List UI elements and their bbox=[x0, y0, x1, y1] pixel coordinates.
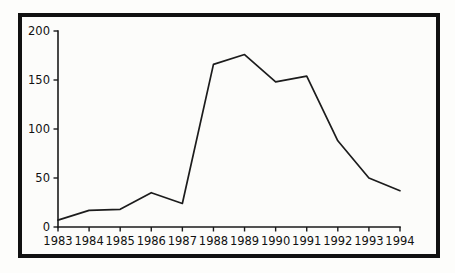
y-tick-label: 100 bbox=[28, 122, 50, 136]
y-tick-label: 0 bbox=[43, 220, 50, 234]
y-axis: 050100150200 bbox=[28, 24, 58, 234]
x-tick-label: 1989 bbox=[230, 234, 259, 248]
y-tick-labels: 050100150200 bbox=[28, 24, 50, 234]
y-tick-label: 200 bbox=[28, 24, 50, 38]
y-tick-label: 150 bbox=[28, 73, 50, 87]
x-tick-label: 1990 bbox=[261, 234, 290, 248]
x-tick-label: 1986 bbox=[137, 234, 166, 248]
x-tick-label: 1984 bbox=[74, 234, 103, 248]
x-tick-label: 1994 bbox=[385, 234, 414, 248]
chart-figure: 050100150200 198319841985198619871988198… bbox=[0, 0, 455, 273]
x-tick-label: 1988 bbox=[199, 234, 228, 248]
x-tick-labels: 1983198419851986198719881989199019911992… bbox=[43, 234, 414, 248]
x-axis: 1983198419851986198719881989199019911992… bbox=[43, 227, 414, 248]
x-tick-label: 1987 bbox=[168, 234, 197, 248]
x-tick-label: 1993 bbox=[354, 234, 383, 248]
x-tick-label: 1992 bbox=[323, 234, 352, 248]
x-tick-label: 1985 bbox=[106, 234, 135, 248]
y-tick-label: 50 bbox=[35, 171, 50, 185]
x-tick-label: 1991 bbox=[292, 234, 321, 248]
x-tick-label: 1983 bbox=[43, 234, 72, 248]
data-series-line bbox=[58, 55, 400, 221]
line-chart-svg: 050100150200 198319841985198619871988198… bbox=[0, 0, 455, 273]
